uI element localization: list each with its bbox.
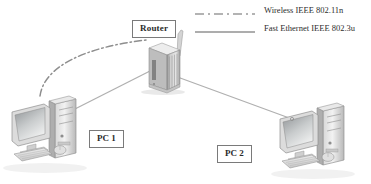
wireless-link-pc1-router (40, 40, 146, 96)
ethernet-link-router-pc1 (69, 71, 150, 112)
node-label-router: Router (132, 20, 176, 38)
pc2-computer-icon (271, 103, 355, 179)
legend-item-ethernet: Fast Ethernet IEEE 802.3u (194, 22, 355, 34)
solid-line-icon (194, 23, 256, 33)
pc1-computer-icon (3, 96, 87, 173)
network-diagram: Wireless IEEE 802.11n Fast Ethernet IEEE… (0, 0, 371, 184)
node-label-pc2: PC 2 (217, 145, 252, 163)
ethernet-link-router-pc2 (172, 75, 292, 119)
dash-dot-line-icon (194, 5, 256, 15)
legend-label-wireless: Wireless IEEE 802.11n (264, 5, 343, 15)
legend-item-wireless: Wireless IEEE 802.11n (194, 4, 343, 16)
node-label-pc1: PC 1 (89, 130, 124, 148)
legend-label-ethernet: Fast Ethernet IEEE 802.3u (264, 23, 355, 33)
router-icon (141, 30, 185, 95)
